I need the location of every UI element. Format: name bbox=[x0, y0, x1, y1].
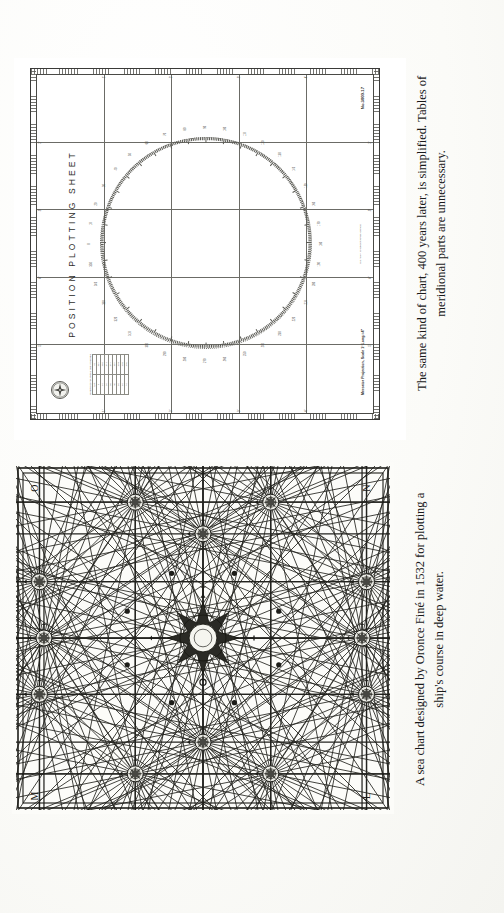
degree-label: 50 bbox=[129, 153, 132, 156]
edge-label-left-1: 1' bbox=[102, 410, 106, 412]
edge-label-left-4: 4' bbox=[304, 410, 308, 412]
corner-letter-bottom-left: M bbox=[29, 791, 40, 800]
nautical-mile-table: LENGTH OF NAUTICAL MILE IN INCHES LAT.IN… bbox=[89, 354, 129, 395]
sheet-frame: 0102030405060708090100110120130140150160… bbox=[30, 68, 380, 420]
degree-label: 340 bbox=[94, 282, 97, 286]
degree-label: 20 bbox=[94, 203, 97, 206]
edge-label-left-3: 3' bbox=[237, 410, 241, 412]
degree-label: 280 bbox=[183, 357, 186, 361]
caption-position-plotting-sheet: The same kind of chart, 400 years later,… bbox=[413, 63, 452, 403]
edge-label-top-1: 5' bbox=[38, 344, 42, 346]
degree-label: 170 bbox=[318, 222, 321, 226]
edge-label-right-3: 3' bbox=[237, 76, 241, 78]
degree-label: 100 bbox=[224, 127, 227, 131]
degree-label: 10 bbox=[89, 222, 92, 225]
caption-line-1: The same kind of chart, 400 years later,… bbox=[415, 76, 429, 391]
edge-label-top-2: 4' bbox=[38, 277, 42, 279]
degree-label: 80 bbox=[183, 128, 186, 131]
degree-label: 250 bbox=[243, 352, 246, 356]
sheet-number: No.3000-17 bbox=[360, 87, 365, 109]
degree-label: 260 bbox=[224, 357, 227, 361]
figure-oronce-fine-sea-chart: ONML bbox=[12, 462, 394, 814]
degree-label: 150 bbox=[304, 183, 307, 187]
edge-label-bottom-2: 4' bbox=[368, 277, 372, 279]
degree-label: 130 bbox=[278, 152, 281, 156]
degree-label: 210 bbox=[304, 300, 307, 304]
publisher-note: U.S. NAVY HYDROGRAPHIC OFFICE bbox=[359, 224, 361, 264]
scanned-page: 0102030405060708090100110120130140150160… bbox=[0, 0, 504, 913]
sea-chart-svg: ONML bbox=[12, 462, 394, 814]
degree-label: 90 bbox=[204, 126, 207, 129]
degree-label: 290 bbox=[164, 352, 167, 356]
edge-label-top-4: 2' bbox=[38, 141, 42, 143]
degree-label: 200 bbox=[313, 282, 316, 286]
table-cell: .195 bbox=[124, 354, 128, 374]
edge-label-bottom-1: 5' bbox=[368, 344, 372, 346]
corner-letter-top-right: N bbox=[361, 484, 372, 491]
degree-label: 350 bbox=[89, 262, 92, 266]
page-title: POSITION PLOTTING SHEET bbox=[67, 150, 77, 337]
projection-note: Mercator Projection, Scale 1° Long.=4" bbox=[361, 329, 365, 395]
degree-label: 120 bbox=[262, 141, 265, 145]
ruler-left bbox=[31, 414, 379, 419]
degree-label: 70 bbox=[164, 133, 167, 136]
degree-label: 160 bbox=[313, 202, 316, 206]
degree-labels: 0102030405060708090100110120130140150160… bbox=[37, 75, 373, 413]
edge-label-right-4: 4' bbox=[304, 76, 308, 78]
edge-label-right-1: 1' bbox=[102, 76, 106, 78]
degree-label: 300 bbox=[145, 343, 148, 347]
edge-label-bottom-3: 3' bbox=[368, 209, 372, 211]
edge-label-top-3: 3' bbox=[38, 209, 42, 211]
edge-label-right-2: 2' bbox=[169, 76, 173, 78]
degree-label: 180 bbox=[320, 242, 323, 246]
figure-position-plotting-sheet: 0102030405060708090100110120130140150160… bbox=[14, 58, 406, 440]
sheet-plot-area: 0102030405060708090100110120130140150160… bbox=[36, 74, 374, 414]
degree-label: 330 bbox=[103, 300, 106, 304]
edge-label-bottom-4: 2' bbox=[368, 141, 372, 143]
table-cell: 70 bbox=[124, 374, 128, 394]
degree-label: 110 bbox=[243, 132, 246, 136]
degree-label: 140 bbox=[292, 167, 295, 171]
degree-label: 240 bbox=[262, 343, 265, 347]
degree-label: 270 bbox=[204, 359, 207, 363]
corner-letter-bottom-right: L bbox=[361, 793, 372, 799]
caption-line-2: meridional parts are unnecessary. bbox=[432, 63, 451, 403]
degree-label: 30 bbox=[103, 184, 106, 187]
corner-letter-top-left: O bbox=[29, 484, 40, 491]
compass-rose-emblem bbox=[51, 381, 69, 399]
plotting-sheet-rotation-wrapper: 0102030405060708090100110120130140150160… bbox=[14, 58, 406, 440]
edge-label-left-2: 2' bbox=[169, 410, 173, 412]
caption-oronce-fine-sea-chart: A sea chart designed by Oronce Finé in 1… bbox=[411, 469, 450, 809]
ruler-bottom bbox=[374, 69, 379, 419]
degree-label: 220 bbox=[292, 317, 295, 321]
degree-label: 60 bbox=[145, 141, 148, 144]
degree-label: 0 bbox=[87, 243, 90, 244]
degree-label: 320 bbox=[115, 317, 118, 321]
degree-label: 230 bbox=[278, 331, 281, 335]
degree-label: 310 bbox=[129, 331, 132, 335]
plotting-sheet: 0102030405060708090100110120130140150160… bbox=[14, 58, 406, 440]
caption-line-2: ship's course in deep water. bbox=[430, 469, 449, 809]
caption-line-1: A sea chart designed by Oronce Finé in 1… bbox=[413, 493, 427, 786]
table-row: 70.195 bbox=[124, 354, 128, 394]
degree-label: 190 bbox=[318, 262, 321, 266]
table-body: 0.06710.06820.07130.07740.08750.10460.13… bbox=[97, 354, 129, 394]
degree-label: 40 bbox=[115, 167, 118, 170]
